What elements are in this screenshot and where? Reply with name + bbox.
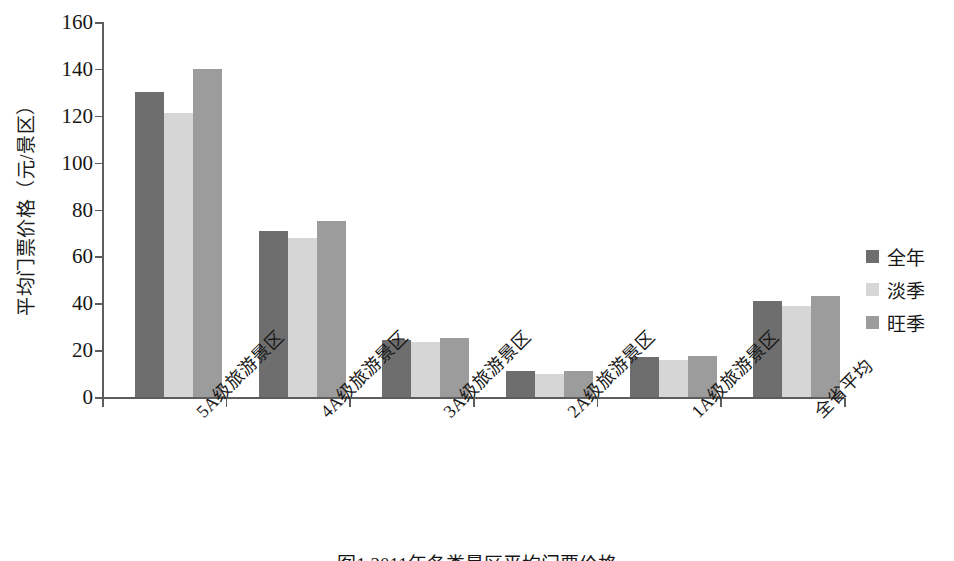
figure-caption: 图1 2011年各类景区平均门票价格 [0, 549, 954, 561]
y-tick-label: 40 [72, 293, 93, 314]
y-tick-label: 80 [72, 199, 93, 220]
y-tick-mark [95, 350, 103, 352]
y-tick-mark [95, 303, 103, 305]
legend-item: 全年 [866, 240, 948, 273]
bar [164, 113, 193, 397]
y-axis-title-text: 平均门票价格（元/景区） [11, 95, 38, 315]
y-tick-label: 160 [62, 12, 94, 33]
y-tick-mark [95, 22, 103, 24]
legend: 全年淡季旺季 [866, 240, 948, 339]
bar [535, 374, 564, 397]
bar [259, 231, 288, 397]
bar [193, 69, 222, 397]
x-tick-mark [102, 398, 104, 407]
bar [135, 92, 164, 397]
legend-label: 淡季 [887, 276, 925, 303]
bar [288, 238, 317, 397]
legend-item: 淡季 [866, 273, 948, 306]
bar [506, 371, 535, 397]
y-tick-mark [95, 163, 103, 165]
bar [659, 360, 688, 398]
y-tick-label: 60 [72, 246, 93, 267]
plot-area: 020406080100120140160 [102, 22, 844, 397]
y-tick-mark [95, 116, 103, 118]
legend-label: 全年 [887, 243, 925, 270]
y-tick-mark [95, 210, 103, 212]
y-tick-label: 140 [62, 58, 94, 79]
legend-label: 旺季 [887, 309, 925, 336]
y-tick-label: 20 [72, 340, 93, 361]
y-tick-mark [95, 256, 103, 258]
legend-swatch [866, 283, 879, 296]
bar [782, 306, 811, 397]
y-tick-label: 100 [62, 152, 94, 173]
legend-swatch [866, 250, 879, 263]
bar-group [135, 22, 222, 397]
y-axis-title: 平均门票价格（元/景区） [6, 40, 42, 370]
y-tick-label: 120 [62, 105, 94, 126]
y-tick-mark [95, 69, 103, 71]
bar-chart-figure: 平均门票价格（元/景区） 020406080100120140160 5A级旅游… [0, 0, 954, 561]
legend-swatch [866, 316, 879, 329]
y-tick-label: 0 [83, 387, 94, 408]
bar [317, 221, 346, 397]
legend-item: 旺季 [866, 306, 948, 339]
bar [411, 342, 440, 397]
